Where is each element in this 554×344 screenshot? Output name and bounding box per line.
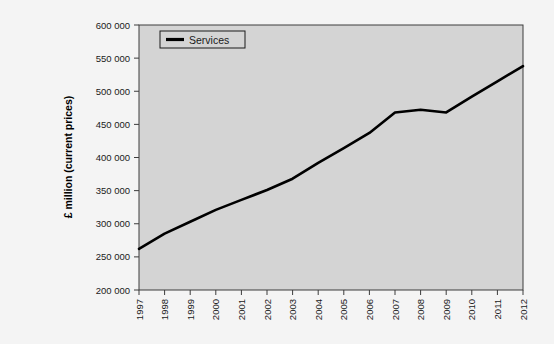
services-line-chart: 200 000250 000300 000350 000400 000450 0…	[0, 0, 554, 344]
y-axis-tick-labels: 200 000250 000300 000350 000400 000450 0…	[96, 20, 130, 296]
y-tick-label: 200 000	[96, 285, 130, 296]
x-tick-label: 2001	[236, 299, 247, 320]
y-tick-label: 300 000	[96, 218, 130, 229]
y-axis-title-text: £ million (current prices)	[62, 96, 74, 219]
y-tick-label: 500 000	[96, 86, 130, 97]
plot-area	[139, 25, 523, 290]
x-tick-label: 2007	[390, 299, 401, 320]
x-tick-label: 1998	[159, 299, 170, 320]
y-tick-label: 350 000	[96, 185, 130, 196]
y-tick-label: 400 000	[96, 152, 130, 163]
x-tick-label: 2004	[313, 299, 324, 320]
x-tick-label: 2008	[415, 299, 426, 320]
x-tick-label: 2005	[338, 299, 349, 320]
y-tick-label: 600 000	[96, 20, 130, 31]
y-axis-title: £ million (current prices)	[62, 96, 74, 219]
x-tick-label: 2011	[492, 299, 503, 319]
x-tick-label: 2003	[287, 299, 298, 320]
x-tick-label: 2006	[364, 299, 375, 320]
y-tick-label: 450 000	[96, 119, 130, 130]
x-tick-label: 2009	[441, 299, 452, 320]
x-tick-label: 1999	[185, 299, 196, 320]
chart-legend: Services	[160, 31, 245, 48]
x-tick-label: 2010	[466, 299, 477, 320]
x-tick-label: 2000	[210, 299, 221, 320]
x-tick-label: 1997	[134, 299, 145, 320]
legend-label-services: Services	[189, 34, 229, 46]
y-tick-label: 250 000	[96, 251, 130, 262]
x-tick-label: 2002	[262, 299, 273, 320]
y-tick-label: 550 000	[96, 53, 130, 64]
x-tick-label: 2012	[518, 299, 529, 320]
